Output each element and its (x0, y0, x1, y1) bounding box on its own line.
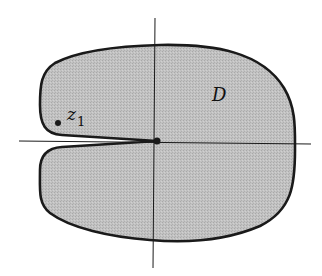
point-z1-dot (55, 120, 61, 126)
origin-point (154, 138, 161, 145)
slit-domain-diagram: z 1 D (0, 0, 322, 276)
point-z1-label: z (66, 104, 77, 124)
region-label-d: D (211, 84, 227, 105)
point-z1-subscript: 1 (77, 114, 85, 129)
